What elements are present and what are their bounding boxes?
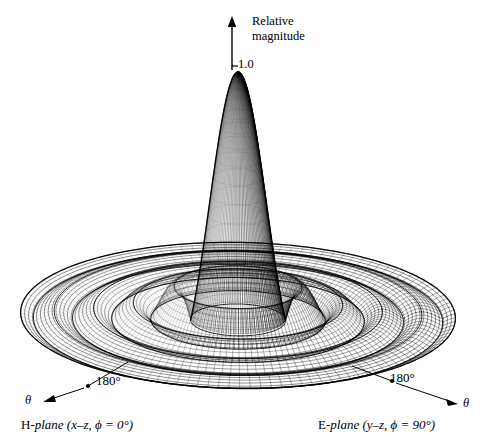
e-plane-text: -plane (y–z, ϕ = 90°) (326, 417, 435, 432)
e-plane-label: E-plane (y–z, ϕ = 90°) (318, 418, 435, 433)
h-plane-text: -plane (x–z, ϕ = 0°) (30, 417, 133, 432)
h-plane-label: H-plane (x–z, ϕ = 0°) (21, 418, 133, 433)
axis-title-line1: Relative (252, 14, 294, 28)
right-angle-label: 180° (390, 371, 415, 386)
right-theta-label: θ (463, 396, 469, 410)
h-plane-prefix: H (21, 417, 30, 432)
radiation-pattern-figure: Relative magnitude 1.0 180° θ H-plane (x… (0, 0, 486, 443)
peak-tick-label: 1.0 (238, 57, 254, 71)
left-theta-label: θ (25, 393, 31, 407)
relative-magnitude-axis (228, 16, 238, 70)
surface-mesh (21, 72, 456, 389)
left-angle-label: 180° (96, 374, 121, 389)
axis-title-line2: magnitude (252, 29, 305, 43)
e-plane-prefix: E (318, 417, 326, 432)
